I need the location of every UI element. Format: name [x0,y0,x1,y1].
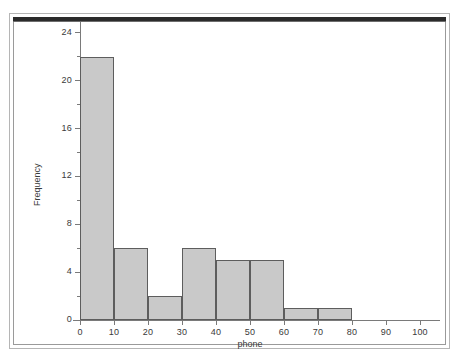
y-axis-tick-label: 12 [40,170,72,180]
x-axis-tick [114,320,115,325]
histogram-bar [284,308,318,320]
y-axis-tick-label: 8 [40,218,72,228]
histogram-bar [148,296,182,320]
x-axis-tick [250,320,251,325]
y-axis-tick-label: 4 [40,266,72,276]
screenshot-canvas: Frequency phone 048121620240102030405060… [0,0,459,363]
histogram-bar [250,260,284,320]
x-axis-tick [80,320,81,325]
histogram-bar [114,248,148,320]
histogram-bar [318,308,352,320]
x-axis-tick-label: 100 [400,327,440,337]
x-axis-tick [420,320,421,325]
y-axis-tick-label: 0 [40,314,72,324]
x-axis-tick [318,320,319,325]
x-axis-tick [386,320,387,325]
histogram-bar [216,260,250,320]
x-axis-tick [284,320,285,325]
x-axis-tick [148,320,149,325]
histogram-bar [80,57,114,320]
y-axis-tick-label: 20 [40,75,72,85]
x-axis-tick [216,320,217,325]
y-axis-tick-label: 16 [40,123,72,133]
histogram-plot: Frequency phone 048121620240102030405060… [0,0,459,363]
x-axis-title: phone [190,339,310,349]
x-axis-tick [352,320,353,325]
x-axis-tick [182,320,183,325]
histogram-bar [182,248,216,320]
y-axis-tick [75,32,80,33]
y-axis-tick-label: 24 [40,27,72,37]
